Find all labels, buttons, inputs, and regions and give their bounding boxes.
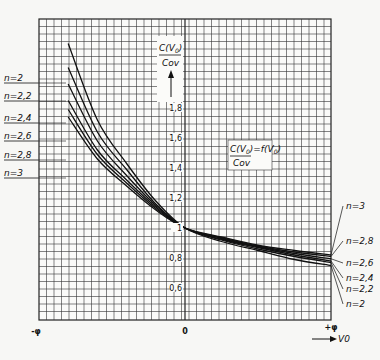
svg-text:n=2,8: n=2,8: [346, 236, 374, 246]
y-tick-label: 0,6: [169, 284, 182, 293]
svg-text:+φ: +φ: [325, 323, 338, 332]
y-axis-denominator: Cov: [162, 58, 180, 68]
x-ticks: -φ 0 +φ V0: [31, 323, 350, 344]
x-axis-label: V0: [338, 334, 350, 344]
svg-text:n=3: n=3: [346, 201, 365, 211]
svg-text:0: 0: [182, 327, 188, 336]
svg-text:n=2,4: n=2,4: [4, 113, 32, 123]
svg-text:Cov: Cov: [233, 158, 251, 168]
svg-text:n=2,8: n=2,8: [4, 150, 32, 160]
y-tick-label: 1,2: [169, 194, 182, 203]
legend-right: n=3n=2,8n=2,6n=2,4n=2,2n=2: [331, 201, 374, 309]
svg-text:n=3: n=3: [4, 168, 23, 178]
svg-text:n=2,2: n=2,2: [346, 284, 374, 294]
y-axis-label: C(V0) Cov: [157, 36, 183, 102]
y-tick-label: 1,8: [169, 104, 182, 113]
svg-text:-φ: -φ: [31, 327, 41, 336]
grid: [39, 19, 331, 320]
svg-text:C(V0)=f(V0): C(V0)=f(V0): [230, 144, 281, 155]
svg-text:n=2,6: n=2,6: [346, 258, 374, 268]
svg-text:n=2,2: n=2,2: [4, 91, 32, 101]
y-tick-label: 1,6: [169, 134, 182, 143]
y-tick-label: 1,4: [169, 164, 182, 173]
y-axis-numerator: C(V0): [159, 43, 182, 54]
svg-text:n=2,6: n=2,6: [4, 131, 32, 141]
svg-text:n=2: n=2: [4, 73, 23, 83]
chart: 0,60,811,21,41,61,82 n=2n=2,2n=2,4n=2,6n…: [0, 0, 380, 360]
svg-text:n=2: n=2: [346, 299, 365, 309]
svg-text:n=2,4: n=2,4: [346, 273, 374, 283]
y-tick-label: 0,8: [169, 254, 182, 263]
y-tick-label: 1: [177, 224, 182, 233]
